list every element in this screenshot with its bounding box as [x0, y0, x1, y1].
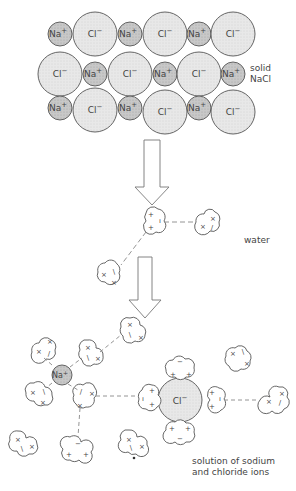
svg-text:×: × [95, 355, 101, 363]
svg-text:×: × [279, 390, 285, 398]
svg-text:+: + [209, 389, 215, 397]
svg-text:+: + [170, 371, 176, 379]
svg-text:+: + [66, 451, 72, 459]
svg-text:×: × [210, 215, 216, 223]
solution-label-line-2: and chloride ions [192, 467, 275, 478]
svg-text:+: + [148, 211, 154, 219]
svg-text:ı: ı [159, 217, 161, 225]
svg-text:×: × [138, 334, 144, 342]
svg-text:×: × [266, 398, 272, 406]
solid-label-line-2: NaCl [250, 74, 271, 85]
svg-text:×: × [101, 271, 107, 279]
svg-text:−: − [75, 440, 81, 448]
svg-text:×: × [139, 443, 145, 451]
svg-text:+: + [149, 401, 155, 409]
lattice-row-1 [48, 12, 255, 56]
water-molecule-lower-left: × × \ [97, 260, 120, 287]
svg-text:×: × [200, 223, 206, 231]
svg-text:×: × [85, 344, 91, 352]
solid-label-line-1: solid [250, 63, 271, 74]
svg-text:+: + [83, 451, 89, 459]
solution-label: solution of sodium and chloride ions [192, 456, 275, 478]
svg-text:−: − [177, 435, 183, 443]
svg-text:×: × [230, 350, 236, 358]
svg-text:×: × [36, 348, 42, 356]
water-molecule-center: + + ı [143, 207, 165, 234]
lattice-row-3 [48, 88, 255, 134]
svg-text:+: + [169, 425, 175, 433]
svg-text:−: − [177, 358, 183, 366]
svg-text:+: + [185, 425, 191, 433]
solid-nacl-label: solid NaCl [250, 63, 271, 85]
svg-text:×: × [89, 390, 95, 398]
arrow-down-icon [135, 140, 169, 205]
svg-text:ı: ı [219, 395, 221, 403]
svg-text:+: + [148, 224, 154, 232]
svg-text:×: × [29, 443, 35, 451]
svg-text:×: × [15, 436, 21, 444]
svg-text:×: × [30, 389, 36, 397]
solution-label-line-1: solution of sodium [192, 456, 275, 467]
svg-text:×: × [127, 321, 133, 329]
svg-text:ı: ı [142, 395, 144, 403]
water-molecules: + + ı × × / × × \ [97, 207, 220, 287]
water-molecule-right: × × / [195, 209, 220, 235]
svg-text:×: × [126, 436, 132, 444]
svg-text:×: × [40, 399, 46, 407]
svg-text:+: + [186, 371, 192, 379]
water-label: water [244, 235, 270, 246]
lattice-row-2 [38, 52, 245, 96]
svg-text:×: × [111, 279, 117, 287]
svg-text:×: × [47, 338, 53, 346]
solution-ions: Na+ × × / × × \ × × \ × × \ × × [9, 317, 290, 463]
ink-dot [133, 457, 136, 460]
svg-text:+: + [209, 403, 215, 411]
svg-text:+: + [149, 387, 155, 395]
svg-text:×: × [244, 360, 250, 368]
arrow-down-icon [129, 257, 161, 318]
